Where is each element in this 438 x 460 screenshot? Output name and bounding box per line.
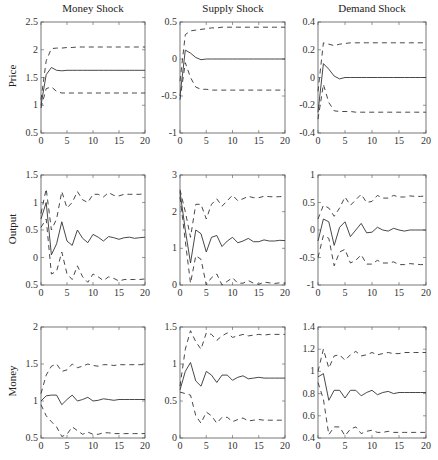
x-tick-label: 5 [343,287,348,298]
y-tick-label: 0.5 [26,224,39,235]
y-tick-label: 0.5 [26,127,39,138]
x-tick-label: 10 [228,135,238,146]
x-tick-label: 5 [65,287,70,298]
x-tick-label: 5 [65,440,70,451]
y-tick-label: 0.5 [26,432,39,443]
x-tick-label: 5 [204,440,209,451]
axes-box [318,327,426,438]
x-tick-label: 15 [114,440,124,451]
response-line [41,395,145,405]
response-line [180,50,285,96]
plot-canvas: 051015200.511.522.505101520-1-0.500.5051… [0,0,438,460]
plot-panel-4: 051015200123 [172,169,290,298]
y-tick-label: 0 [172,432,177,443]
response-line [41,203,145,255]
x-tick-label: 5 [343,440,348,451]
response-line [41,68,145,106]
y-tick-label: 0.8 [303,388,316,399]
y-tick-label: 0 [310,72,315,83]
y-tick-label: 0.2 [303,44,316,55]
confidence-band-line [41,405,145,437]
x-tick-label: 10 [228,440,238,451]
x-tick-label: 5 [204,287,209,298]
y-tick-label: 1.4 [303,321,316,332]
y-tick-label: 1 [33,197,38,208]
y-tick-label: 1.5 [26,358,39,369]
y-tick-label: 0.5 [303,197,316,208]
axes-box [41,175,145,285]
y-tick-label: 3 [172,169,177,180]
response-line [318,64,426,113]
y-tick-label: 1 [310,169,315,180]
y-tick-label: 0.5 [165,395,178,406]
y-tick-label: 0.6 [303,410,316,421]
y-tick-label: 0.5 [26,279,39,290]
x-tick-label: 20 [421,135,431,146]
x-tick-label: 15 [254,135,264,146]
x-tick-label: 10 [228,287,238,298]
response-line [180,192,285,264]
x-tick-label: 0 [316,440,321,451]
x-tick-label: 10 [88,440,98,451]
y-tick-label: 0 [33,252,38,263]
response-line [318,219,426,245]
x-tick-label: 20 [421,287,431,298]
x-tick-label: 10 [367,287,377,298]
x-tick-label: 20 [280,287,290,298]
confidence-band-line [41,189,145,230]
y-tick-label: 1 [172,242,177,253]
y-tick-label: 2 [33,321,38,332]
x-tick-label: 10 [367,135,377,146]
y-tick-label: 0.5 [165,16,178,27]
y-tick-label: -1 [169,127,177,138]
confidence-band-line [41,47,145,100]
y-tick-label: 1.2 [303,343,316,354]
y-tick-label: 1 [33,395,38,406]
x-tick-label: 15 [114,287,124,298]
x-tick-label: 20 [280,440,290,451]
x-tick-label: 20 [280,135,290,146]
x-tick-label: 20 [140,135,150,146]
x-tick-label: 10 [88,135,98,146]
plot-panel-2: 05101520-0.4-0.200.20.4 [299,16,431,146]
y-tick-label: -0.4 [299,127,315,138]
x-tick-label: 5 [204,135,209,146]
x-tick-label: 20 [421,440,431,451]
x-tick-label: 15 [254,440,264,451]
x-tick-label: 15 [394,135,404,146]
axes-box [41,327,145,438]
plot-panel-5: 05101520-1-0.500.51 [299,169,431,298]
y-tick-label: 2 [33,44,38,55]
x-tick-label: 15 [394,287,404,298]
x-tick-label: 0 [316,135,321,146]
y-tick-label: -1 [307,279,315,290]
plot-panel-7: 0510152000.511.5 [165,321,291,451]
response-line [318,374,426,401]
y-tick-label: 0.4 [303,432,316,443]
y-tick-label: 1.5 [26,169,39,180]
confidence-band-line [41,219,145,282]
impulse-response-figure: Money Shock Supply Shock Demand Shock Pr… [0,0,438,460]
x-tick-label: 0 [39,440,44,451]
y-tick-label: -0.5 [161,90,177,101]
x-tick-label: 15 [394,440,404,451]
confidence-band-line [180,392,285,423]
x-tick-label: 20 [140,287,150,298]
plot-panel-3: 051015200.500.511.5 [26,169,151,298]
confidence-band-line [318,236,426,266]
y-tick-label: 1 [33,99,38,110]
plot-panel-6: 051015200.511.52 [26,321,151,451]
y-tick-label: -0.2 [299,99,315,110]
y-tick-label: 0 [172,279,177,290]
x-tick-label: 0 [316,287,321,298]
x-tick-label: 0 [39,287,44,298]
x-tick-label: 0 [178,440,183,451]
x-tick-label: 0 [39,135,44,146]
confidence-band-line [180,63,285,100]
confidence-band-line [41,87,145,108]
confidence-band-line [318,349,426,371]
y-tick-label: 1.5 [26,72,39,83]
response-line [180,363,285,390]
axes-box [180,327,285,438]
confidence-band-line [318,43,426,92]
